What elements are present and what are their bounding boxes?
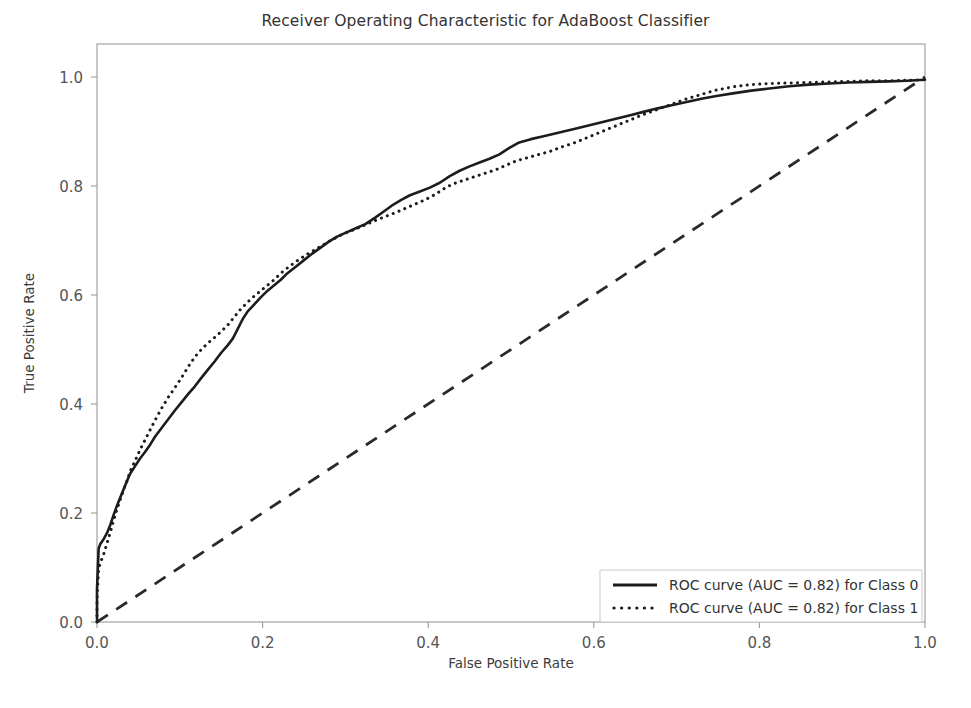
x-axis-ticks: 0.00.20.40.60.81.0 [85, 622, 937, 652]
legend-label-class-0: ROC curve (AUC = 0.82) for Class 0 [669, 577, 918, 593]
x-tick-label: 1.0 [913, 634, 937, 652]
plot-background [97, 44, 925, 622]
plot-canvas: 0.00.20.40.60.81.0 0.00.20.40.60.81.0 Fa… [0, 0, 971, 708]
y-tick-label: 0.2 [59, 505, 83, 523]
x-axis-title: False Positive Rate [448, 655, 573, 671]
y-tick-label: 0.6 [59, 287, 83, 305]
x-tick-label: 0.0 [85, 634, 109, 652]
y-axis-ticks: 0.00.20.40.60.81.0 [59, 69, 97, 632]
y-axis-title: True Positive Rate [21, 273, 37, 394]
x-tick-label: 0.8 [747, 634, 771, 652]
y-tick-label: 0.8 [59, 178, 83, 196]
roc-chart-figure: Receiver Operating Characteristic for Ad… [0, 0, 971, 708]
chart-legend: ROC curve (AUC = 0.82) for Class 0 ROC c… [600, 570, 922, 622]
legend-label-class-1: ROC curve (AUC = 0.82) for Class 1 [669, 600, 918, 616]
x-tick-label: 0.6 [582, 634, 606, 652]
x-tick-label: 0.4 [416, 634, 440, 652]
x-tick-label: 0.2 [251, 634, 275, 652]
y-tick-label: 0.0 [59, 614, 83, 632]
y-tick-label: 1.0 [59, 69, 83, 87]
y-tick-label: 0.4 [59, 396, 83, 414]
